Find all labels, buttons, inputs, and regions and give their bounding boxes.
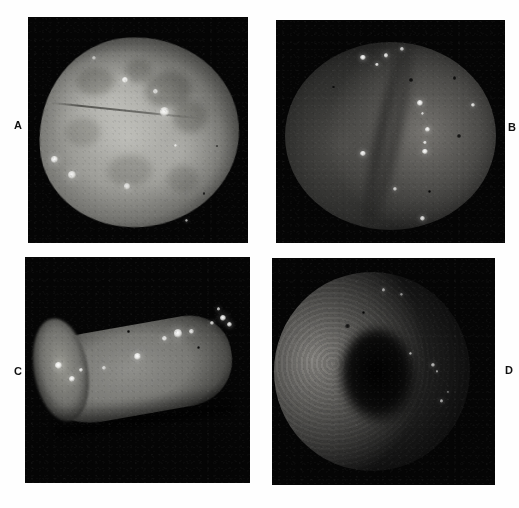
- fluorescent-focus: [227, 322, 232, 327]
- panel-label-c: C: [14, 366, 22, 377]
- fluorescent-focus: [220, 315, 227, 322]
- panel-a-mottling: [33, 31, 246, 234]
- panel-b-image: [276, 20, 505, 243]
- panel-c-image: [25, 257, 250, 483]
- panel-label-b: B: [508, 122, 516, 133]
- panel-d-image: [272, 258, 495, 485]
- panel-label-d: D: [505, 365, 513, 376]
- panel-label-a: A: [14, 120, 22, 131]
- panel-a-image: [28, 17, 248, 243]
- fluorescent-focus: [217, 307, 221, 311]
- fluorescent-focus: [185, 219, 188, 222]
- figure-root: A B C D: [0, 0, 519, 508]
